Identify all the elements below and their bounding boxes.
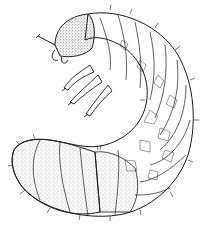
legs: [62, 65, 112, 117]
grub-illustration: [0, 0, 205, 231]
illustration-canvas: beetle larva (white grub) line illustrat…: [0, 0, 205, 231]
head: [36, 14, 94, 63]
